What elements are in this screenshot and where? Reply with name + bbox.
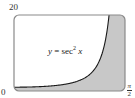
function-label-lhs: y xyxy=(48,46,52,56)
y-tick-20: 20 xyxy=(9,3,18,12)
x-tick-0: 0 xyxy=(1,88,6,97)
function-label-fn: sec xyxy=(62,46,74,56)
x-tick-pi-over-2: π 2 xyxy=(127,83,132,98)
function-label-arg: x xyxy=(78,46,82,56)
function-label-eq: = xyxy=(54,46,59,56)
function-label-exp: 2 xyxy=(73,45,76,51)
x-tick-pi-denominator: 2 xyxy=(127,91,132,98)
function-label: y = sec2 x xyxy=(48,45,82,56)
